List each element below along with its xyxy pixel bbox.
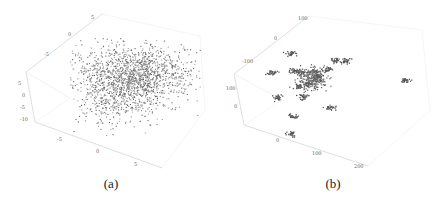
tick-label: 200 <box>354 163 364 169</box>
tick-label: 0 <box>234 103 237 109</box>
caption-a: (a) <box>0 176 222 192</box>
axes-box-b <box>234 16 430 166</box>
axis-ticks-b: -100 0 100 100 0 0 100 200 <box>226 15 364 169</box>
tick-label: 100 <box>312 150 322 156</box>
tick-label: 100 <box>226 85 236 91</box>
tick-label: -100 <box>242 58 253 64</box>
tick-label: 0 <box>96 148 99 154</box>
tick-label: 0 <box>22 92 25 98</box>
panel-b: -100 0 100 100 0 0 100 200 (b) <box>222 0 444 203</box>
tick-label: 0 <box>274 35 277 41</box>
panel-a: -5 0 5 5 0 -5 -10 -5 0 5 (a) <box>0 0 222 203</box>
tick-label: 0 <box>68 31 71 37</box>
scatter-plot-3d-a: -5 0 5 5 0 -5 -10 -5 0 5 <box>0 0 222 203</box>
point-cloud-a <box>70 38 201 136</box>
point-clusters-b <box>265 51 412 138</box>
tick-label: 5 <box>18 80 21 86</box>
tick-label: -10 <box>20 116 28 122</box>
caption-b: (b) <box>222 176 444 192</box>
tick-label: -5 <box>44 51 49 57</box>
tick-label: -5 <box>57 136 62 142</box>
tick-label: 100 <box>298 15 308 21</box>
tick-label: -5 <box>20 104 25 110</box>
scatter-plot-3d-b: -100 0 100 100 0 0 100 200 <box>222 0 444 203</box>
tick-label: 5 <box>91 14 94 20</box>
tick-label: 0 <box>276 137 279 143</box>
tick-label: 5 <box>134 161 137 167</box>
